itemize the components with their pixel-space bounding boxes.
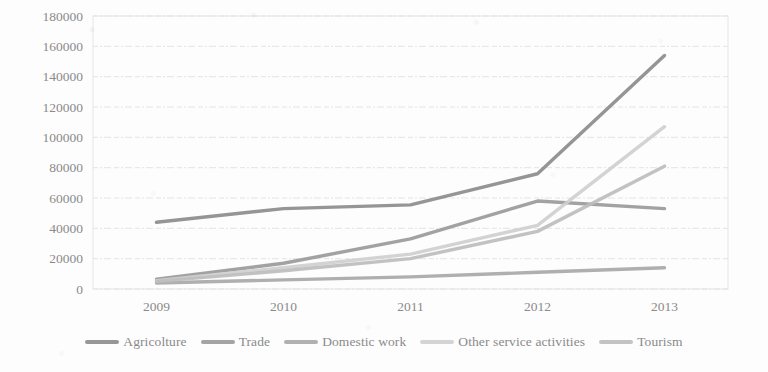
legend-label: Agricolture [123,334,186,350]
y-axis-tick-label: 20000 [49,251,83,266]
y-axis-tick-label: 160000 [43,39,84,54]
legend-label: Tourism [637,334,683,350]
x-axis-tick-label: 2013 [651,299,678,314]
legend-swatch-icon [201,340,235,344]
y-axis-tick-label: 180000 [43,9,84,24]
y-axis-tick-label: 120000 [43,100,84,115]
y-axis-tick-label: 100000 [43,130,84,145]
legend-item-other-service-activities[interactable]: Other service activities [420,334,585,350]
x-axis-tick-label: 2011 [397,299,424,314]
y-axis-tick-label: 40000 [49,221,83,236]
legend-label: Trade [239,334,271,350]
x-axis-tick-label: 2010 [270,299,297,314]
chart-legend: AgricoltureTradeDomestic workOther servi… [0,334,768,350]
legend-swatch-icon [420,340,454,344]
legend-item-domestic-work[interactable]: Domestic work [284,334,406,350]
chart-figure: 0200004000060000800001000001200001400001… [0,0,768,372]
y-axis-tick-label: 140000 [43,69,84,84]
legend-swatch-icon [85,340,119,344]
y-axis-tick-labels: 0200004000060000800001000001200001400001… [43,9,84,297]
y-axis-tick-label: 60000 [49,191,83,206]
legend-item-trade[interactable]: Trade [201,334,271,350]
legend-swatch-icon [599,340,633,344]
legend-swatch-icon [284,340,318,344]
line-chart-svg: 0200004000060000800001000001200001400001… [0,0,768,372]
series-line-agricolture [157,55,665,222]
series-line-tourism [157,166,665,281]
y-axis-tick-label: 0 [76,282,83,297]
y-axis-tick-label: 80000 [49,160,83,175]
x-axis-tick-label: 2012 [524,299,551,314]
legend-item-tourism[interactable]: Tourism [599,334,683,350]
x-axis-tick-labels: 20092010201120122013 [143,299,678,314]
x-axis-tick-label: 2009 [143,299,170,314]
data-series-group [157,55,665,282]
legend-label: Domestic work [322,334,406,350]
legend-label: Other service activities [458,334,585,350]
legend-item-agricolture[interactable]: Agricolture [85,334,186,350]
